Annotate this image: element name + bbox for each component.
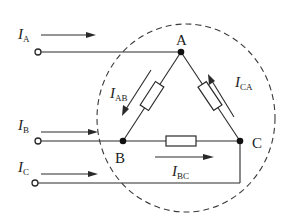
label-i-ab: IAB <box>109 85 128 103</box>
resistor-ca <box>198 82 222 111</box>
node-b-label: B <box>115 150 125 166</box>
arrow-i-b <box>41 129 98 135</box>
node-a-dot <box>178 49 185 56</box>
node-a-label: A <box>176 32 187 48</box>
resistor-bc <box>166 136 196 146</box>
terminal-b <box>35 138 41 144</box>
arrow-i-c <box>41 171 98 177</box>
terminal-c <box>32 180 38 186</box>
resistor-ab <box>140 82 164 111</box>
label-i-c: IC <box>17 159 29 177</box>
arrow-i-bc <box>155 154 214 160</box>
node-c-dot <box>237 138 244 145</box>
delta-circuit-diagram: A B C IA IB IC IAB ICA IBC <box>0 0 290 219</box>
terminal-a <box>35 49 41 55</box>
arrow-i-a <box>41 32 96 38</box>
label-i-bc: IBC <box>171 163 189 181</box>
label-i-ca: ICA <box>234 74 253 92</box>
node-c-label: C <box>252 135 262 151</box>
label-i-b: IB <box>17 117 29 135</box>
node-b-dot <box>120 138 127 145</box>
label-i-a: IA <box>17 26 30 44</box>
